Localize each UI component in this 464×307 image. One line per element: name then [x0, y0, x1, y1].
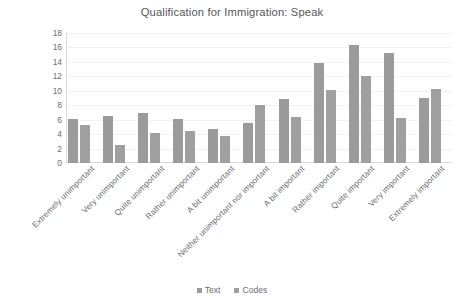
- plot-area: [66, 33, 452, 163]
- bar-group: [277, 33, 312, 163]
- bar-codes: [150, 133, 160, 163]
- bar-codes: [80, 125, 90, 163]
- x-axis-tick-label: Extremely unimportant: [30, 164, 96, 230]
- bar-group: [171, 33, 206, 163]
- y-axis: 181614121086420: [38, 33, 62, 163]
- chart-title: Qualification for Immigration: Speak: [0, 6, 464, 18]
- bar-text: [349, 45, 359, 163]
- bar-codes: [115, 145, 125, 163]
- bar-codes: [361, 76, 371, 163]
- bar-text: [314, 63, 324, 163]
- bar-group: [417, 33, 452, 163]
- bar-codes: [326, 90, 336, 163]
- bar-group: [66, 33, 101, 163]
- y-axis-tick-label: 0: [57, 158, 62, 168]
- bar-text: [384, 53, 394, 164]
- bar-codes: [185, 131, 195, 164]
- legend-item-text[interactable]: Text: [197, 285, 221, 295]
- bar-group: [101, 33, 136, 163]
- legend-label: Text: [205, 285, 221, 295]
- bar-codes: [431, 89, 441, 163]
- y-axis-tick-label: 18: [53, 28, 62, 38]
- bar-group: [312, 33, 347, 163]
- y-axis-tick-label: 12: [53, 71, 62, 81]
- bar-text: [68, 119, 78, 163]
- bar-group: [136, 33, 171, 163]
- bar-codes: [255, 105, 265, 164]
- legend-label: Codes: [242, 285, 267, 295]
- bar-codes: [220, 136, 230, 163]
- bar-group: [206, 33, 241, 163]
- y-axis-tick-label: 6: [57, 115, 62, 125]
- legend-item-codes[interactable]: Codes: [234, 285, 267, 295]
- chart-legend: TextCodes: [0, 285, 464, 295]
- x-axis: Extremely unimportantVery unimportantQui…: [66, 164, 452, 274]
- chart-container: Qualification for Immigration: Speak 181…: [0, 0, 464, 307]
- bar-text: [279, 99, 289, 163]
- y-axis-tick-label: 14: [53, 57, 62, 67]
- bar-text: [208, 129, 218, 163]
- legend-swatch-icon: [197, 288, 202, 293]
- y-axis-tick-label: 2: [57, 144, 62, 154]
- bar-text: [419, 98, 429, 163]
- y-axis-tick-label: 4: [57, 129, 62, 139]
- bar-text: [103, 116, 113, 163]
- legend-swatch-icon: [234, 288, 239, 293]
- bar-codes: [396, 118, 406, 163]
- y-axis-tick-label: 8: [57, 100, 62, 110]
- bar-group: [241, 33, 276, 163]
- y-axis-tick-label: 10: [53, 86, 62, 96]
- bar-text: [138, 113, 148, 163]
- bar-text: [243, 123, 253, 163]
- bar-text: [173, 119, 183, 163]
- bar-group: [382, 33, 417, 163]
- y-axis-tick-label: 16: [53, 42, 62, 52]
- bar-group: [347, 33, 382, 163]
- bars-layer: [66, 33, 452, 163]
- bar-codes: [291, 117, 301, 163]
